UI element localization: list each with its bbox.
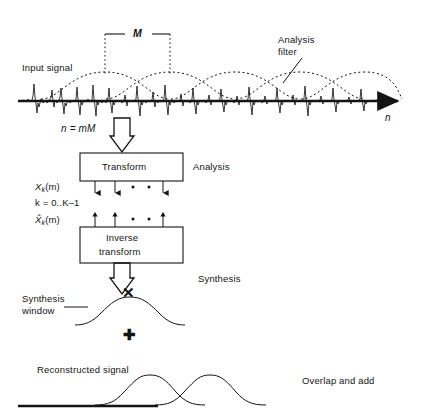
forward-coefficients-label: Xk(m) <box>35 181 60 196</box>
analysis-side-label: Analysis <box>193 161 230 173</box>
input-signal-panel <box>18 34 402 116</box>
sum-node: ✚ <box>123 327 136 342</box>
inverse-coefficients-argument: (m) <box>45 214 60 225</box>
figure-root: Input signal M Analysis filter n n = mM … <box>0 0 428 413</box>
transform-box-label: Transform <box>102 161 146 173</box>
axis-n-label: n <box>385 112 391 124</box>
overlap-and-add-label: Overlap and add <box>302 375 375 387</box>
synthesis-window-label-line2: window <box>22 305 55 317</box>
sample-instant-label: n = mM <box>61 123 96 135</box>
forward-coefficients-argument: (m) <box>45 181 60 192</box>
index-range-label: k = 0..K–1 <box>35 197 80 209</box>
inverse-transform-label-line2: transform <box>99 246 140 258</box>
analysis-input-arrow <box>110 118 134 152</box>
hop-bracket <box>105 34 170 76</box>
analysis-coefficient-stems <box>95 181 163 193</box>
synthesis-window-curve <box>64 297 185 325</box>
inverse-transform-label-line1: Inverse <box>106 232 138 244</box>
input-signal-label: Input signal <box>22 62 72 74</box>
synthesis-side-label: Synthesis <box>198 273 241 285</box>
synthesis-coefficient-stems <box>92 212 165 227</box>
analysis-filter-label-line2: filter <box>278 46 297 58</box>
multiply-node: ✕ <box>122 285 135 300</box>
inverse-coefficients-label: X̂k(m) <box>35 214 60 229</box>
reconstructed-signal-panel <box>18 375 266 406</box>
hop-bracket-label: M <box>133 28 142 40</box>
reconstructed-signal-label: Reconstructed signal <box>37 364 129 376</box>
analysis-filter-leader <box>283 58 302 83</box>
analysis-filter-label-line1: Analysis <box>278 34 315 46</box>
synthesis-window-label-line1: Synthesis <box>22 293 65 305</box>
